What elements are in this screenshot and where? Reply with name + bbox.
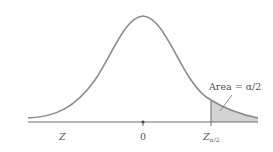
tick-label-critical: Zα/2 <box>202 131 220 143</box>
axis-label-z: Z <box>58 131 66 142</box>
annotation-label: Area = α/2 <box>208 81 261 92</box>
normal-curve <box>28 16 258 118</box>
tick-label-zero: 0 <box>140 131 146 142</box>
critical-value-subscript: α/2 <box>210 136 220 143</box>
normal-distribution-figure: Area = α/2 Z 0 Zα/2 <box>0 0 273 152</box>
